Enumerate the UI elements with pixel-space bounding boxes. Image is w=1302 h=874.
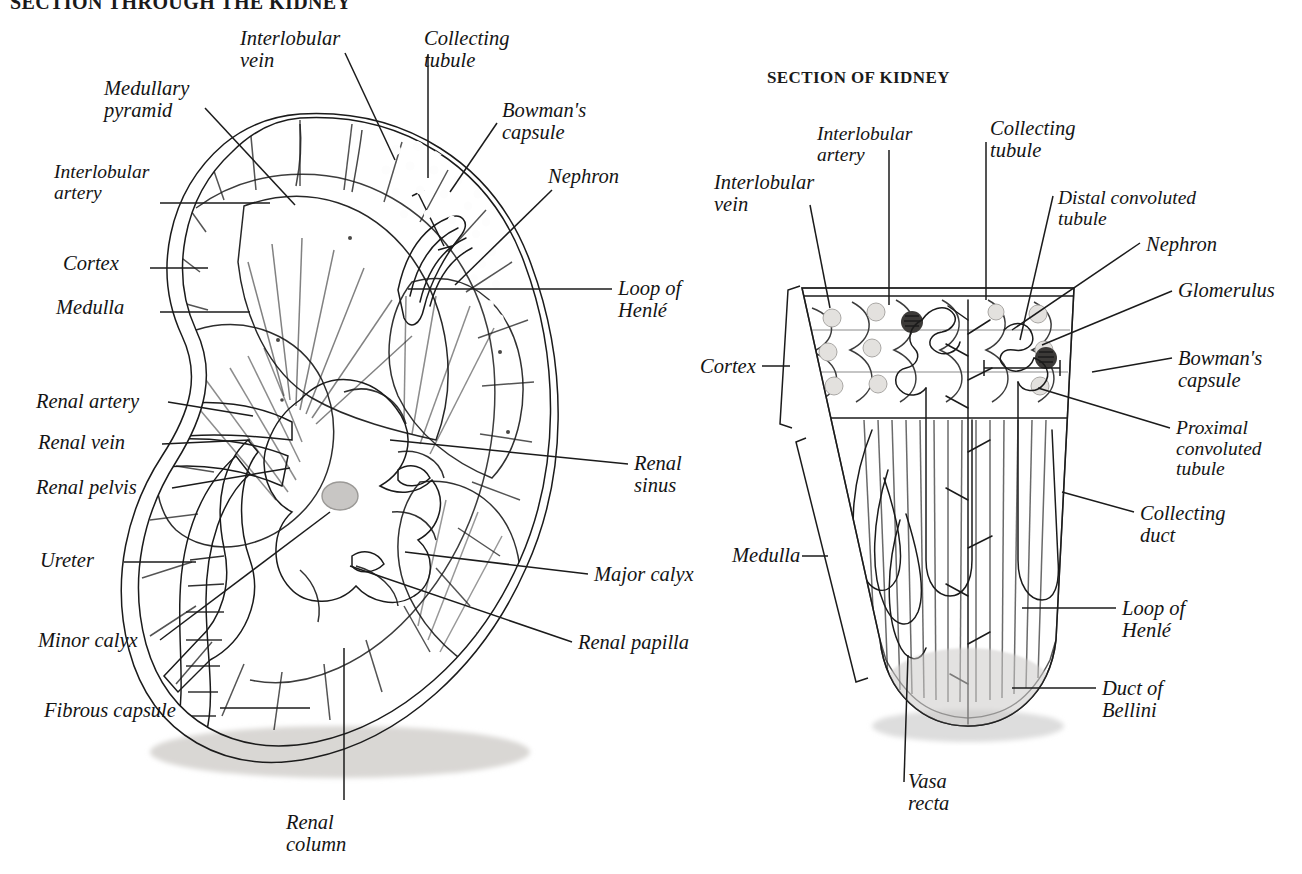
label-cortex: Cortex <box>700 356 756 378</box>
label-bowmans-capsule: Bowman's capsule <box>502 100 586 143</box>
label-vasa-recta: Vasa recta <box>908 771 949 814</box>
leader-medullary-pyramid <box>205 108 295 205</box>
leader-glomerulus <box>1042 291 1172 345</box>
leader-renal-artery <box>168 402 253 416</box>
leader-collecting-duct <box>1062 492 1134 512</box>
label-collecting-duct: Collecting duct <box>1140 503 1225 546</box>
label-interlobular-artery: Interlobular artery <box>54 162 149 203</box>
leader-nephron <box>1012 243 1140 330</box>
leader-major-calyx <box>405 552 588 574</box>
leader-interlobular-vein <box>345 53 395 160</box>
leader-bowmans-capsule <box>450 123 497 192</box>
medulla-bracket <box>796 438 868 682</box>
label-medulla: Medulla <box>56 297 124 319</box>
leader-renal-papilla <box>350 566 572 642</box>
label-loop-of-henle: Loop of Henlé <box>618 278 681 321</box>
leader-minor-calyx <box>160 512 330 640</box>
nephron-span-bracket <box>984 360 1060 376</box>
page-title-left: SECTION THROUGH THE KIDNEY <box>10 0 351 14</box>
label-bowmans-capsule: Bowman's capsule <box>1178 348 1262 391</box>
label-interlobular-artery: Interlobular artery <box>817 124 912 165</box>
label-collecting-tubule: Collecting tubule <box>424 28 509 71</box>
label-interlobular-vein: Interlobular vein <box>240 28 340 71</box>
label-renal-artery: Renal artery <box>36 391 139 413</box>
label-fibrous-capsule: Fibrous capsule <box>44 700 176 722</box>
leader-renal-vein <box>162 440 250 444</box>
label-medullary-pyramid: Medullary pyramid <box>104 78 189 121</box>
label-renal-column: Renal column <box>286 812 346 855</box>
label-major-calyx: Major calyx <box>594 564 694 586</box>
leader-renal-pelvis <box>172 468 290 488</box>
label-duct-of-bellini: Duct of Bellini <box>1102 678 1163 721</box>
left-kidney-illustration <box>0 0 1302 874</box>
label-glomerulus: Glomerulus <box>1178 280 1275 302</box>
label-interlobular-vein: Interlobular vein <box>714 172 814 215</box>
label-collecting-tubule: Collecting tubule <box>990 118 1075 161</box>
label-loop-of-henle: Loop of Henlé <box>1122 598 1185 641</box>
label-medulla: Medulla <box>732 545 800 567</box>
leader-bowmans-capsule <box>1092 358 1172 372</box>
leader-proximal-tubule <box>1038 388 1170 428</box>
leader-interlobular-vein <box>810 205 830 308</box>
label-ureter: Ureter <box>40 550 94 572</box>
leader-distal-tubule <box>1020 196 1053 340</box>
leader-vasa-recta <box>904 655 908 782</box>
label-nephron: Nephron <box>548 166 619 188</box>
label-minor-calyx: Minor calyx <box>38 630 138 652</box>
label-distal-tubule: Distal convoluted tubule <box>1058 188 1196 229</box>
label-renal-sinus: Renal sinus <box>634 453 682 496</box>
label-proximal-tubule: Proximal convoluted tubule <box>1176 418 1262 480</box>
label-renal-pelvis: Renal pelvis <box>36 477 137 499</box>
label-nephron: Nephron <box>1146 234 1217 256</box>
leader-renal-sinus <box>390 440 628 464</box>
cortex-bracket <box>780 286 800 428</box>
label-renal-vein: Renal vein <box>38 432 125 454</box>
right-wedge-illustration <box>0 0 1302 874</box>
label-cortex: Cortex <box>63 253 119 275</box>
diagram-canvas: SECTION THROUGH THE KIDNEY SECTION OF KI… <box>0 0 1302 874</box>
leader-nephron <box>455 190 552 285</box>
page-title-right: SECTION OF KIDNEY <box>767 68 950 88</box>
label-renal-papilla: Renal papilla <box>578 632 689 654</box>
leader-lines <box>0 0 1302 874</box>
